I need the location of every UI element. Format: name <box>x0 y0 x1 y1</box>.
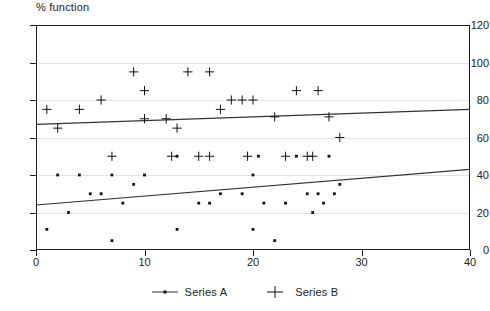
gridline-y-40 <box>37 175 469 176</box>
y-tick-label-20: 20 <box>459 207 489 219</box>
y-tick-label-40: 40 <box>459 169 489 181</box>
legend-label-series-b: Series B <box>295 286 338 298</box>
y-tick-label-0: 0 <box>459 244 489 256</box>
x-tick-label-20: 20 <box>233 256 273 268</box>
gridline-y-60 <box>37 138 469 139</box>
y-tick-label-100: 100 <box>459 57 489 69</box>
y-tick-mark-60 <box>30 138 36 139</box>
y-tick-mark-100 <box>30 63 36 64</box>
legend-label-series-a: Series A <box>185 286 228 298</box>
y-tick-mark-20 <box>30 213 36 214</box>
chart-legend: Series A Series B <box>0 286 489 298</box>
x-tick-label-40: 40 <box>450 256 490 268</box>
plus-icon <box>261 286 289 298</box>
legend-item-series-b[interactable]: Series B <box>261 286 338 298</box>
y-tick-mark-120 <box>30 25 36 26</box>
y-tick-label-80: 80 <box>459 94 489 106</box>
line-dot-icon <box>151 286 179 298</box>
x-tick-label-30: 30 <box>342 256 382 268</box>
gridline-y-20 <box>37 213 469 214</box>
x-tick-label-0: 0 <box>16 256 56 268</box>
x-tick-label-10: 10 <box>125 256 165 268</box>
gridline-y-80 <box>37 100 469 101</box>
chart-title: % function <box>36 1 89 13</box>
y-tick-mark-40 <box>30 175 36 176</box>
y-tick-mark-80 <box>30 100 36 101</box>
y-tick-label-120: 120 <box>459 19 489 31</box>
gridline-y-100 <box>37 63 469 64</box>
y-tick-label-60: 60 <box>459 132 489 144</box>
legend-item-series-a[interactable]: Series A <box>151 286 228 298</box>
